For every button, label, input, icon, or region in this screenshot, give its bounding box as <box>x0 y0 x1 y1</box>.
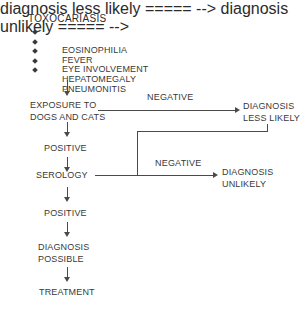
diamond-bullet-icon <box>32 68 38 74</box>
list-item: EYE INVOLVEMENT <box>33 46 149 56</box>
node-positive-exposure: POSITIVE <box>44 143 87 155</box>
connector-exposure-to-less-likely <box>98 110 236 111</box>
arrow-head-down-icon <box>64 197 70 202</box>
diamond-bullet-icon <box>32 39 38 45</box>
connector-feedback-segment-down-left <box>137 131 138 176</box>
connector-feedback-segment-horizontal <box>137 131 268 132</box>
connector-serology-to-unlikely <box>95 175 214 176</box>
diagram-title: TOXOCARIASIS <box>28 13 106 24</box>
list-item: FEVER <box>33 37 149 47</box>
node-diagnosis-unlikely: DIAGNOSIS UNLIKELY <box>222 167 273 190</box>
node-exposure: EXPOSURE TO DOGS AND CATS <box>30 100 105 123</box>
arrow-head-right-icon <box>213 172 218 178</box>
symptom-label: PNEUMONITIS <box>62 84 126 94</box>
arrow-head-down-icon <box>64 132 70 137</box>
arrow-head-right-icon <box>235 107 240 113</box>
arrow-head-down-icon <box>64 277 70 282</box>
list-item: HEPATOMEGALY <box>33 56 149 66</box>
list-item: EOSINOPHILIA <box>33 27 149 37</box>
node-serology: SEROLOGY <box>36 170 88 182</box>
arrow-head-down-icon <box>64 232 70 237</box>
arrow-head-down-icon <box>64 91 70 96</box>
symptom-label: HEPATOMEGALY <box>62 74 136 84</box>
edge-label-negative-serology: NEGATIVE <box>155 158 201 169</box>
list-item: PNEUMONITIS <box>33 65 149 75</box>
diamond-bullet-icon <box>32 48 38 54</box>
diamond-bullet-icon <box>32 29 38 35</box>
diamond-bullet-icon <box>32 58 38 64</box>
symptom-list: EOSINOPHILIA FEVER EYE INVOLVEMENT HEPAT… <box>33 27 149 75</box>
toxocariasis-diagnostic-flowchart: TOXOCARIASIS EOSINOPHILIA FEVER EYE INVO… <box>0 0 308 309</box>
node-positive-serology: POSITIVE <box>44 208 87 220</box>
node-diagnosis-possible: DIAGNOSIS POSSIBLE <box>38 242 89 265</box>
edge-label-negative-exposure: NEGATIVE <box>147 92 193 103</box>
node-diagnosis-less-likely: DIAGNOSIS LESS LIKELY <box>243 101 300 124</box>
node-treatment: TREATMENT <box>39 287 95 299</box>
